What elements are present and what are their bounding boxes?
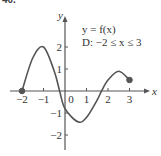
function-annotation: y = f(x) bbox=[82, 23, 116, 36]
x-tick-label: 0 bbox=[68, 93, 74, 105]
x-tick-label: −2 bbox=[16, 93, 28, 105]
x-tick-label: 1 bbox=[84, 93, 90, 105]
function-curve bbox=[22, 47, 130, 123]
y-tick-label: −1 bbox=[50, 107, 62, 119]
y-tick-label: −2 bbox=[50, 129, 62, 141]
x-tick-label: 3 bbox=[127, 93, 133, 105]
y-tick-label: 2 bbox=[57, 41, 63, 53]
x-tick-label: 2 bbox=[105, 93, 111, 105]
y-tick-label: 1 bbox=[57, 63, 63, 75]
function-graph: −2−10123 −2−112 x y y = f(x) D: −2 ≤ x ≤… bbox=[0, 0, 161, 156]
x-axis-label: x bbox=[151, 85, 157, 97]
endpoint-dot bbox=[127, 77, 133, 83]
domain-annotation: D: −2 ≤ x ≤ 3 bbox=[82, 36, 142, 48]
y-axis-arrow-icon bbox=[63, 16, 68, 22]
y-axis-label: y bbox=[57, 9, 63, 21]
endpoint-dot bbox=[19, 88, 25, 94]
x-axis-arrow-icon bbox=[144, 89, 150, 94]
x-tick-label: −1 bbox=[38, 93, 50, 105]
